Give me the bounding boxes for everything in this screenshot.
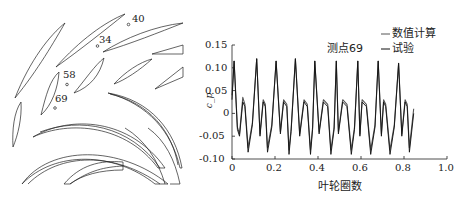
x-tick-label: 0.2 <box>266 163 282 173</box>
blade-outlines <box>0 0 200 199</box>
measuring-point-label-69: 69 <box>55 94 68 104</box>
measuring-point-label-58: 58 <box>63 70 76 80</box>
y-tick-label: 0.15 <box>205 40 227 50</box>
y-tick-label: -0.10 <box>199 154 225 164</box>
x-tick-label: 1.0 <box>438 163 454 173</box>
measuring-point-label-40: 40 <box>132 14 145 24</box>
y-tick-label: -0.05 <box>199 131 225 141</box>
pressure-coefficient-chart: 00.20.40.60.81.0-0.10-0.0500.050.100.15 … <box>200 0 466 199</box>
chart-annotation: 测点69 <box>327 43 363 54</box>
x-axis-label: 叶轮圈数 <box>318 181 362 192</box>
x-tick-label: 0.8 <box>395 163 411 173</box>
x-tick-label: 0.6 <box>352 163 368 173</box>
measuring-point-label-34: 34 <box>99 35 112 45</box>
x-tick-label: 0 <box>229 163 235 173</box>
legend-swatches <box>381 34 390 49</box>
legend-label-numerical: 数值计算 <box>392 28 436 39</box>
legend-label-experiment: 试验 <box>392 43 414 54</box>
blade-section-diagram: 40 34 58 69 <box>0 0 200 199</box>
y-axis-label: c_p <box>205 93 214 108</box>
y-tick-label: 0.10 <box>205 63 227 73</box>
y-tick-label: 0 <box>223 108 229 118</box>
chart-series <box>232 59 414 155</box>
x-tick-label: 0.4 <box>309 163 325 173</box>
